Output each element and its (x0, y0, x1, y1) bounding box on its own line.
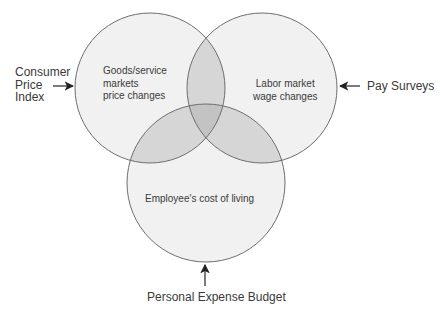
venn-diagram (0, 0, 440, 312)
source-personal-expense-budget: Personal Expense Budget (147, 291, 286, 304)
label-cost-of-living: Employee's cost of living (145, 193, 254, 206)
top-cropped-text: · (207, 0, 210, 4)
source-pay-surveys: Pay Surveys (367, 80, 434, 93)
source-consumer-price-index: Consumer Price Index (15, 66, 70, 104)
label-labor-market: Labor market wage changes (253, 78, 318, 103)
label-goods-services: Goods/service markets price changes (103, 65, 167, 103)
